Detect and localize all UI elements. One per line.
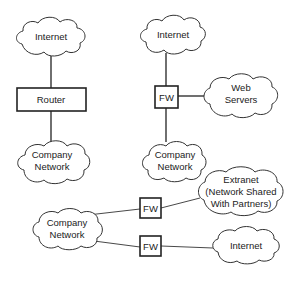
internet-cloud: Internet [213,227,280,264]
fw2-label: FW [143,241,158,252]
company-network-cloud: Company Network [142,142,206,182]
edge-fw2-internet [161,246,213,248]
edge-fw1-extranet [161,198,200,208]
network-diagram: Internet Router Company Network Internet… [0,0,298,281]
web-servers-cloud: Web Servers [204,74,278,118]
panel-router-setup: Internet Router Company Network [16,17,89,183]
extranet-cloud: Extranet (Network Shared With Partners) [198,167,283,216]
internet-label: Internet [35,31,68,42]
company-label-line1: Company [32,149,73,160]
company-label-line1: Company [47,217,88,228]
internet-cloud: Internet [16,17,85,56]
panel-firewall-dmz-setup: Internet FW Web Servers Company Network [140,15,277,182]
fw-label: FW [159,92,174,103]
internet-label: Internet [230,240,263,251]
extranet-label-line1: Extranet [223,174,259,185]
panel-extranet-setup: Company Network FW FW Extranet (Network … [33,167,283,264]
router-label: Router [37,94,66,105]
web-servers-label-line1: Web [231,82,250,93]
company-label-line2: Network [158,161,193,172]
edge-company-fw1 [88,209,140,215]
fw1-label: FW [143,203,158,214]
company-label-line1: Company [155,149,196,160]
firewall-box-2: FW [140,236,161,256]
company-network-cloud: Company Network [33,209,102,250]
firewall-box: FW [155,86,178,108]
company-label-line2: Network [50,229,85,240]
internet-label: Internet [157,29,190,40]
router-box: Router [17,88,86,111]
extranet-label-line3: With Partners) [211,198,272,209]
edge-company-fw2 [94,241,140,247]
company-label-line2: Network [35,161,70,172]
internet-cloud: Internet [140,15,205,54]
firewall-box-1: FW [140,198,161,218]
web-servers-label-line2: Servers [225,94,258,105]
extranet-label-line2: (Network Shared [205,186,276,197]
company-network-cloud: Company Network [18,141,90,184]
